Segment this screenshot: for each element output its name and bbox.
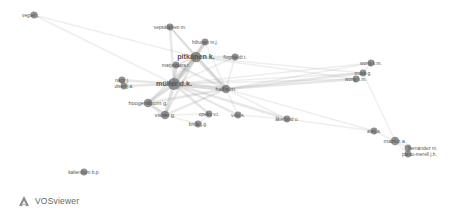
- node-label-wong_km[interactable]: wong k.m.: [360, 61, 382, 66]
- node-label-visser[interactable]: visser g.: [155, 112, 176, 118]
- node-label-ateljevic[interactable]: atelj a.: [367, 129, 381, 134]
- node-label-bridge[interactable]: brida j.g.: [189, 122, 207, 127]
- node-label-marjavaara[interactable]: marjavaara r.: [162, 63, 190, 68]
- node-label-olsen[interactable]: olsen j.a.: [114, 84, 133, 89]
- node-label-wong_m[interactable]: wong k.m.: [345, 77, 367, 82]
- node-label-hernandez[interactable]: hernández m.: [408, 146, 437, 151]
- node-label-velo[interactable]: velo s.: [231, 113, 245, 118]
- node-label-kaltenborn[interactable]: kaltenborn b.p.: [68, 170, 100, 175]
- vosviewer-logo-text: VOSviewer: [35, 196, 79, 206]
- node-layer: [31, 12, 412, 176]
- edge-akerlund-ateljevic: [287, 119, 374, 131]
- node-label-flognfeldt[interactable]: flognfeldt t.: [223, 55, 246, 60]
- node-label-vegter[interactable]: vegter j.: [22, 13, 39, 18]
- node-label-veposalainen[interactable]: vepsäläinen m.: [154, 25, 186, 30]
- vosviewer-logo-icon: [18, 195, 30, 207]
- node-label-akerlund[interactable]: åkerlund u.: [275, 116, 299, 122]
- node-label-mazon[interactable]: mazón a.: [383, 138, 406, 144]
- edge-layer: [34, 15, 408, 154]
- node-label-opeku[interactable]: opeku v.t.: [199, 112, 219, 117]
- node-label-norris[interactable]: nagy j.: [115, 78, 129, 83]
- node-label-muller[interactable]: müller d.k.: [156, 79, 192, 88]
- edge-hall-ateljevic: [226, 89, 374, 131]
- node-label-hiltunen[interactable]: hiltunen m.j.: [192, 40, 218, 45]
- node-label-pitkanen[interactable]: pitkänen k.: [177, 52, 215, 61]
- network-map[interactable]: vegter j.vepsäläinen m.hiltunen m.j.pitk…: [0, 0, 462, 219]
- node-label-ferrer[interactable]: parau-merell j.h.: [402, 152, 437, 157]
- node-label-musa[interactable]: musa g.: [354, 71, 371, 76]
- vosviewer-logo: VOSviewer: [14, 190, 87, 212]
- node-label-hall[interactable]: hall c.m.: [216, 86, 237, 92]
- node-label-hoogendoorn[interactable]: hoogendoorn g.: [128, 100, 168, 106]
- edge-pitkanen-musa: [196, 57, 363, 73]
- label-layer: vegter j.vepsäläinen m.hiltunen m.j.pitk…: [22, 13, 437, 175]
